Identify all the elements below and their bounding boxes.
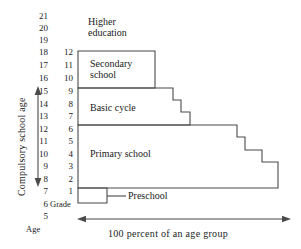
secondary-school-outline [78,51,155,88]
diagram-lines [0,0,301,249]
education-pyramid-diagram: Compulsory school age 21 20 19 18 17 16 … [0,0,301,249]
compulsory-age-arrow-head-top [35,86,42,95]
compulsory-age-arrow-head-bottom [35,178,42,187]
age-group-arrow-head-left [77,216,86,223]
age-group-arrow-head-right [282,216,291,223]
preschool-outline [78,188,107,203]
basic-cycle-outline [78,88,190,125]
primary-school-outline [78,125,278,188]
